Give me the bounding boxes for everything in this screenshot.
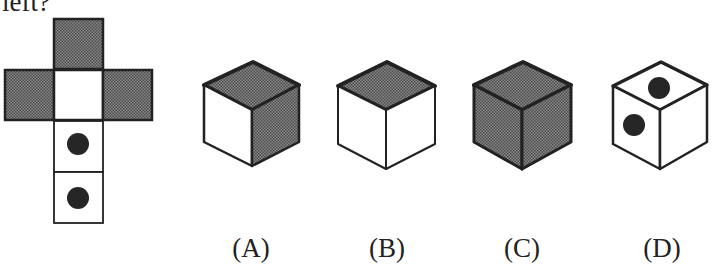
option-b-cube[interactable] (338, 62, 435, 169)
option-d-label[interactable]: (D) (627, 233, 697, 263)
dot-icon (67, 133, 89, 155)
option-b-label[interactable]: (B) (352, 233, 422, 263)
dot-icon (648, 77, 670, 99)
net-face-top (54, 19, 103, 69)
net-face-left (5, 70, 54, 120)
option-c-cube[interactable] (474, 62, 571, 169)
option-c-label[interactable]: (C) (487, 233, 557, 263)
option-d-cube[interactable] (613, 62, 707, 169)
net-face-right (103, 70, 152, 120)
dot-icon (67, 187, 89, 209)
net-face-center (54, 70, 103, 120)
option-a-cube[interactable] (204, 62, 299, 166)
cube-net (5, 19, 152, 223)
dot-icon (623, 114, 645, 136)
option-a-label[interactable]: (A) (216, 233, 286, 263)
